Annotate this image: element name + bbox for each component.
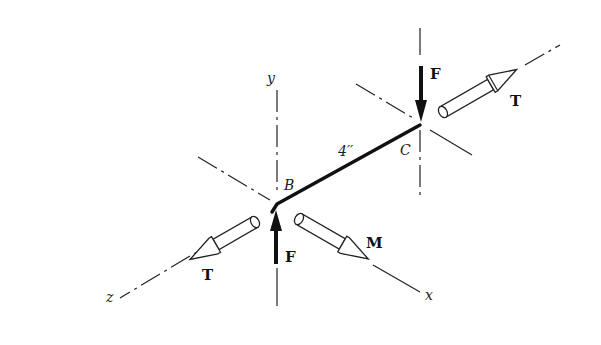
- c-diagonal-lower-right: [430, 130, 472, 155]
- moment-m-label: M: [366, 234, 383, 252]
- moment-m: [291, 209, 373, 267]
- free-body-diagram: y x z B C 4′′ F F T T M: [0, 0, 601, 345]
- force-f-at-c: [415, 66, 427, 122]
- x-axis: [373, 265, 420, 292]
- y-axis-label: y: [266, 70, 276, 86]
- x-axis-label: x: [425, 287, 433, 303]
- bar-length-label: 4′′: [337, 143, 354, 159]
- force-f-at-b-label: F: [285, 248, 296, 266]
- axes-at-b: [120, 90, 420, 306]
- torque-t-at-b: [186, 212, 263, 267]
- axes-at-c: [356, 28, 560, 200]
- point-b-label: B: [283, 177, 294, 193]
- torque-t-at-c: [435, 62, 521, 122]
- c-axis-upper-right: [525, 45, 560, 65]
- torque-t-at-b-label: T: [202, 266, 214, 284]
- z-axis-label: z: [105, 289, 114, 305]
- force-f-at-b: [270, 210, 282, 264]
- bar-bc: [272, 125, 420, 212]
- force-f-at-c-label: F: [430, 65, 441, 83]
- point-c-label: C: [400, 142, 411, 158]
- torque-t-at-c-label: T: [510, 92, 522, 110]
- c-diagonal-upper-left: [356, 84, 413, 118]
- upper-left-axis: [198, 157, 270, 200]
